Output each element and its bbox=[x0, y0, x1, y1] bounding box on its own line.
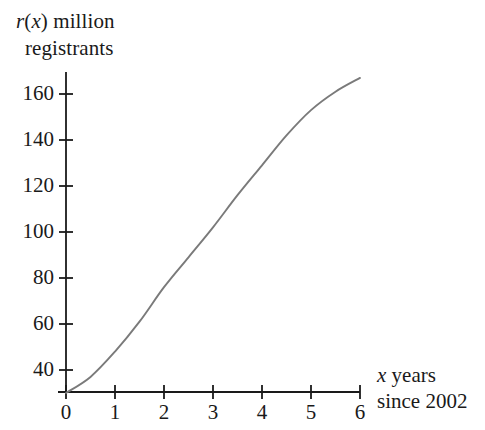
x-tick-label: 3 bbox=[201, 402, 225, 423]
y-tick-label: 40 bbox=[8, 359, 54, 380]
chart-figure: r(x) million registrants x years since 2… bbox=[0, 0, 485, 430]
x-tick-label: 2 bbox=[152, 402, 176, 423]
x-tick-label: 6 bbox=[348, 402, 372, 423]
y-tick-label: 140 bbox=[8, 129, 54, 150]
data-curve bbox=[66, 78, 360, 393]
x-tick-label: 4 bbox=[250, 402, 274, 423]
y-tick-label: 160 bbox=[8, 83, 54, 104]
y-tick-label: 60 bbox=[8, 313, 54, 334]
y-tick-label: 80 bbox=[8, 267, 54, 288]
x-tick-label: 5 bbox=[299, 402, 323, 423]
plot-area bbox=[0, 0, 485, 430]
x-tick-label: 0 bbox=[54, 402, 78, 423]
y-tick-label: 120 bbox=[8, 175, 54, 196]
axis-ticks-group bbox=[59, 94, 360, 399]
x-tick-label: 1 bbox=[103, 402, 127, 423]
y-tick-label: 100 bbox=[8, 221, 54, 242]
